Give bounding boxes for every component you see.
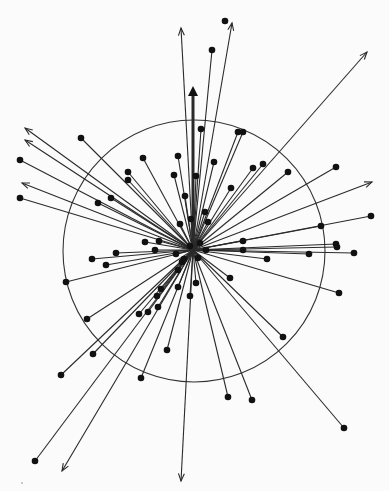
data-point [108,195,115,202]
data-point [188,216,195,223]
data-point [187,293,194,300]
data-point [336,290,343,297]
data-point [260,161,267,168]
data-point [318,223,325,230]
data-point [181,256,188,263]
ray-line [61,250,193,375]
data-point [138,375,145,382]
data-point [280,334,287,341]
data-point [240,238,247,245]
ray-line [62,250,193,471]
data-point [193,173,200,180]
data-point [136,311,143,318]
data-point [182,193,189,200]
data-point [154,293,161,300]
data-point [78,135,85,142]
data-point [228,185,235,192]
data-point [63,279,70,286]
data-point [240,247,247,254]
data-point [90,351,97,358]
data-point [125,169,132,176]
data-point [333,164,340,171]
data-point [177,221,184,228]
ray-line [193,167,336,250]
data-point [351,250,358,257]
data-point [195,255,202,262]
ray-line [20,160,193,250]
ray-line [181,250,193,481]
data-point [17,157,24,164]
data-point [142,239,149,246]
data-point [145,309,152,316]
data-point [203,247,210,254]
data-point [306,251,313,258]
data-point [222,18,229,25]
data-point [95,200,102,207]
data-point [158,286,165,293]
data-point [175,284,182,291]
data-point [225,394,232,401]
data-point [113,250,120,257]
data-point [211,159,218,166]
data-point [209,47,216,54]
data-point [89,256,96,263]
data-point [17,195,24,202]
ray-line [25,140,193,250]
filled-arrowhead-icon [188,86,198,96]
data-point [58,372,65,379]
arrowhead-icon [62,463,68,471]
data-point [156,238,163,245]
data-point [103,262,110,269]
ray-line [193,52,367,250]
data-point [164,347,171,354]
data-point [205,219,212,226]
arrowhead-icon [25,140,33,147]
data-point [171,172,178,179]
speck-mark [21,482,23,484]
ray-line [193,182,372,250]
data-point [334,244,341,251]
data-point [152,247,159,254]
data-point [155,304,162,311]
ray-line [25,128,193,250]
data-point [193,280,200,287]
data-point [240,129,247,136]
data-point [227,275,234,282]
radial-vector-diagram [0,0,389,491]
data-point [140,155,147,162]
data-point [250,165,257,172]
ray-line [193,250,344,428]
data-point [32,458,39,465]
ray-line [35,250,193,461]
data-point [84,316,91,323]
data-point [197,240,204,247]
data-point [368,213,375,220]
data-point [202,209,209,216]
data-point [175,153,182,160]
data-point [187,243,194,250]
data-point [285,169,292,176]
data-point [249,397,256,404]
ray-group [20,23,372,481]
ray-line [22,183,193,250]
data-point [264,256,271,263]
data-point [341,425,348,432]
data-point [198,126,205,133]
ray-line [193,23,232,250]
data-point [175,267,182,274]
data-point [125,177,132,184]
data-point [173,251,180,258]
